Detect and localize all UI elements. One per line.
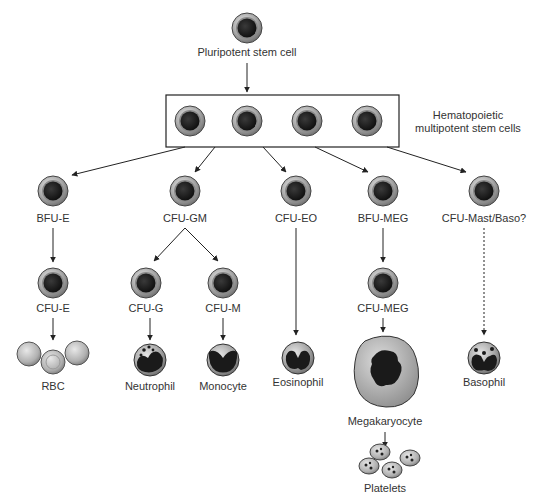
eosinophil-label: Eosinophil [273, 376, 324, 388]
eosinophil-cell: Eosinophil [273, 342, 324, 388]
arrows-box-to-progenitors [72, 147, 466, 175]
cfu-mast-baso-label: CFU-Mast/Baso? [442, 212, 526, 224]
bfu-meg-label: BFU-MEG [358, 212, 409, 224]
multipotent-stem-cells-group: Hematopoietic multipotent stem cells [166, 95, 521, 147]
platelets-cells: Platelets [359, 444, 420, 494]
neutrophil-cell: Neutrophil [125, 344, 175, 392]
rbc-cells: RBC [17, 341, 89, 392]
arrows-intermediates-to-mature [53, 318, 383, 340]
multipotent-label-line1: Hematopoietic [433, 109, 504, 121]
platelets-label: Platelets [364, 482, 407, 494]
monocyte-cell: Monocyte [199, 344, 247, 392]
pluripotent-stem-cell: Pluripotent stem cell [197, 13, 296, 58]
cfu-m-label: CFU-M [205, 302, 240, 314]
basophil-cell: Basophil [463, 342, 505, 388]
intermediate-cfu-meg: CFU-MEG [357, 268, 408, 314]
intermediate-cfu-e: CFU-E [36, 268, 70, 314]
megakaryocyte-cell: Megakaryocyte [348, 336, 423, 427]
progenitor-cfu-eo: CFU-EO [275, 176, 318, 224]
intermediate-cfu-m: CFU-M [205, 268, 240, 314]
cfu-gm-label: CFU-GM [163, 212, 207, 224]
monocyte-label: Monocyte [199, 380, 247, 392]
progenitor-bfu-meg: BFU-MEG [358, 176, 409, 224]
bfu-e-label: BFU-E [37, 212, 70, 224]
cfu-g-label: CFU-G [129, 302, 164, 314]
neutrophil-label: Neutrophil [125, 380, 175, 392]
pluripotent-stem-cell-label: Pluripotent stem cell [197, 46, 296, 58]
cfu-eo-label: CFU-EO [275, 212, 318, 224]
cfu-e-label: CFU-E [36, 302, 70, 314]
hematopoiesis-diagram: Pluripotent stem cell Hematopoietic mult… [0, 0, 537, 498]
intermediate-cfu-g: CFU-G [129, 268, 164, 314]
basophil-label: Basophil [463, 376, 505, 388]
progenitor-bfu-e: BFU-E [37, 176, 70, 224]
multipotent-label-line2: multipotent stem cells [415, 122, 521, 134]
cfu-meg-label: CFU-MEG [357, 302, 408, 314]
rbc-label: RBC [41, 380, 64, 392]
arrows-progenitors-to-intermediates [53, 228, 484, 335]
progenitor-cfu-gm: CFU-GM [163, 176, 207, 224]
progenitor-cfu-mast-baso: CFU-Mast/Baso? [442, 176, 526, 224]
megakaryocyte-label: Megakaryocyte [348, 415, 423, 427]
